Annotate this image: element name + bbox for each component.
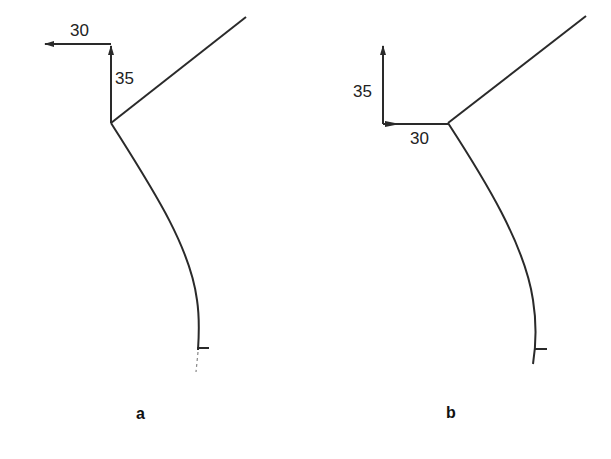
panel-a-vertical-dimension-label: 35	[115, 70, 134, 87]
panel-b-curve	[448, 123, 536, 364]
panel-a-curve	[111, 123, 199, 350]
panel-a-caption: a	[136, 406, 145, 422]
panel-b-caption: b	[446, 405, 456, 421]
panel-b	[383, 16, 586, 364]
panel-b-horizontal-arrowhead-icon	[385, 121, 400, 127]
panel-a-horizontal-dimension-label: 30	[70, 22, 89, 39]
panel-a	[45, 17, 246, 372]
panel-b-diagonal-line	[448, 16, 586, 123]
panel-a-curve-continuation	[196, 352, 198, 372]
diagram-canvas	[0, 0, 611, 459]
panel-b-horizontal-dimension-label: 30	[410, 130, 429, 147]
panel-b-vertical-dimension-label: 35	[353, 83, 372, 100]
